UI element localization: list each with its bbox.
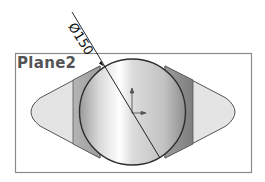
cad-viewport[interactable] <box>0 0 265 182</box>
plane-label[interactable]: Plane2 <box>17 54 76 72</box>
